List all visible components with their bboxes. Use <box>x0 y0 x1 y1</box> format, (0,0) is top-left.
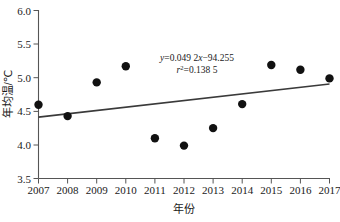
x-tick-label: 2013 <box>202 184 225 196</box>
x-axis-title: 年份 <box>173 202 195 215</box>
y-tick-label: 4.0 <box>17 139 31 151</box>
data-point <box>238 100 246 108</box>
data-point <box>34 101 42 109</box>
data-point <box>209 124 217 132</box>
data-point <box>93 78 101 86</box>
x-tick-label: 2016 <box>289 184 312 196</box>
x-tick-label: 2008 <box>57 184 80 196</box>
x-tick-label: 2015 <box>260 184 283 196</box>
data-point <box>325 74 333 82</box>
trendline <box>39 84 330 117</box>
y-tick-label: 5.5 <box>17 38 31 50</box>
scatter-plot-svg: 6.0 5.5 5.0 4.5 4.0 3.5 2007 2008 2009 <box>0 0 340 222</box>
y-tick-label: 6.0 <box>17 5 31 17</box>
y-tick-label: 5.0 <box>17 72 31 84</box>
x-tick-label: 2017 <box>319 184 340 196</box>
chart-container: 6.0 5.5 5.0 4.5 4.0 3.5 2007 2008 2009 <box>0 0 340 222</box>
y-axis-ticks <box>34 11 39 179</box>
x-axis-ticks <box>39 179 330 184</box>
y-tick-label: 3.5 <box>17 173 31 185</box>
y-axis-title: 年均温/℃ <box>1 70 14 118</box>
y-axis-tick-labels: 6.0 5.5 5.0 4.5 4.0 3.5 <box>17 5 31 185</box>
x-tick-label: 2007 <box>28 184 51 196</box>
data-point <box>267 61 275 69</box>
x-axis-tick-labels: 2007 2008 2009 2010 2011 2012 2013 2014 … <box>28 184 340 196</box>
data-point <box>122 62 130 70</box>
r-squared-label: r2=0.138 5 <box>177 64 218 76</box>
y-tick-label: 4.5 <box>17 105 31 117</box>
x-tick-label: 2009 <box>86 184 109 196</box>
data-point <box>63 112 71 120</box>
data-point <box>296 66 304 74</box>
x-tick-label: 2010 <box>115 184 138 196</box>
regression-equation-label: y=0.049 2x−94.255 <box>159 53 234 63</box>
data-point <box>151 134 159 142</box>
x-tick-label: 2011 <box>144 184 166 196</box>
data-point <box>180 141 188 149</box>
x-tick-label: 2014 <box>231 184 254 196</box>
x-tick-label: 2012 <box>173 184 195 196</box>
